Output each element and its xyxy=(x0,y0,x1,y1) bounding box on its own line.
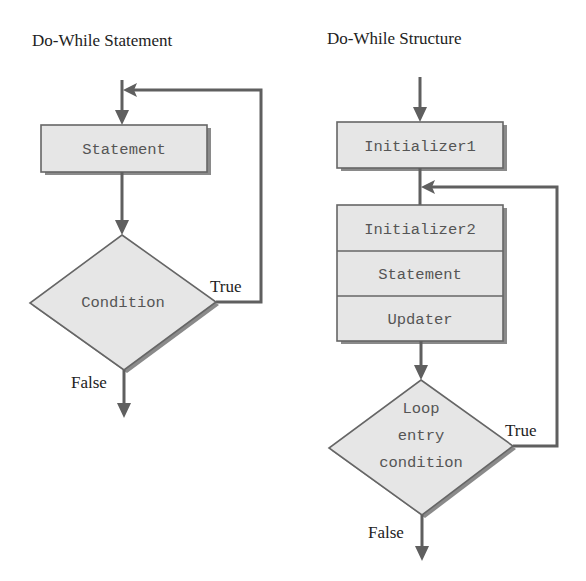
arrow-down-icon xyxy=(115,110,129,125)
statement-box: Statement xyxy=(41,125,211,175)
diagram-title-left: Do-While Statement xyxy=(32,31,172,50)
condition-diamond: Condition xyxy=(30,235,219,373)
updater-label: Updater xyxy=(387,311,452,329)
arrow-down-icon xyxy=(415,546,429,561)
condition-label-line2: entry xyxy=(398,427,445,445)
diagram-title-right: Do-While Structure xyxy=(327,29,462,48)
loop-entry-condition-diamond: Loop entry condition xyxy=(329,380,516,518)
initializer1-box: Initializer1 xyxy=(337,122,507,171)
do-while-statement-diagram: Do-While Statement Statement Condition T… xyxy=(30,31,261,418)
arrow-down-icon xyxy=(413,107,427,122)
flowchart-canvas: Do-While Statement Statement Condition T… xyxy=(0,0,586,581)
true-label: True xyxy=(505,421,537,440)
loop-body-block: Initializer2 Statement Updater xyxy=(337,205,507,344)
arrow-down-icon xyxy=(117,403,131,418)
condition-label-line1: Loop xyxy=(402,400,439,418)
condition-label: Condition xyxy=(81,294,165,312)
statement-label: Statement xyxy=(82,141,166,159)
arrow-down-icon xyxy=(115,220,129,235)
condition-label-line3: condition xyxy=(379,454,463,472)
false-label: False xyxy=(71,373,107,392)
false-label: False xyxy=(368,523,404,542)
arrow-down-icon xyxy=(414,365,428,380)
do-while-structure-diagram: Do-While Structure Initializer1 Initiali… xyxy=(327,29,557,561)
initializer1-label: Initializer1 xyxy=(364,138,476,156)
initializer2-label: Initializer2 xyxy=(364,221,476,239)
statement-label: Statement xyxy=(378,266,462,284)
true-label: True xyxy=(210,277,242,296)
